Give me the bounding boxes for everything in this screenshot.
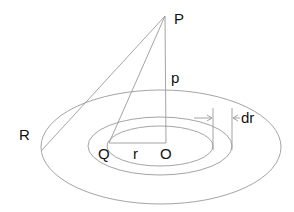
label-R: R xyxy=(19,127,30,142)
line-P-R xyxy=(42,16,165,150)
label-Q: Q xyxy=(98,146,110,161)
label-dr: dr xyxy=(241,110,254,125)
diagram-canvas: P p R Q r O dr xyxy=(0,0,294,212)
label-p: p xyxy=(171,70,179,85)
geometry xyxy=(0,0,294,212)
line-P-O xyxy=(165,16,166,143)
line-P-Q xyxy=(109,16,165,143)
label-r: r xyxy=(133,146,138,161)
label-O: O xyxy=(160,146,172,161)
label-P: P xyxy=(174,11,184,26)
